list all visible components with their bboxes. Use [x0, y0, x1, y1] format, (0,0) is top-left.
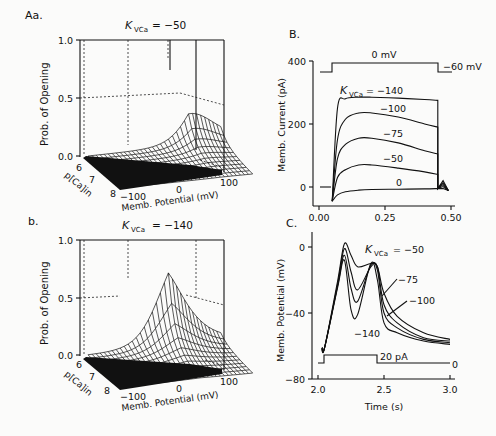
y-axis-label-B: Memb. Current (pA) [276, 78, 287, 172]
y-axis-label-C: Memb. Potential (mV) [275, 259, 286, 362]
panel-C: C. 0 −40 −80 2.0 2.5 3.0 Time (s) Memb. … [275, 217, 458, 412]
svg-text:0.5: 0.5 [58, 93, 73, 104]
svg-text:−75: −75 [398, 274, 418, 285]
svg-text:−100: −100 [380, 103, 406, 114]
svg-text:8: 8 [110, 188, 116, 199]
svg-text:1.0: 1.0 [58, 235, 73, 246]
svg-text:0.00: 0.00 [308, 212, 329, 223]
panel-b: b. K VCa = −140 1.0 0.5 0.0 Prob. of Ope… [28, 215, 253, 413]
panel-Aa-title: K VCa = −50 [125, 19, 186, 34]
panel-label-Aa: Aa. [25, 9, 43, 22]
svg-text:0: 0 [176, 383, 182, 394]
kvca-label-C: K VCa = −50 [365, 243, 424, 258]
svg-text:VCa: VCa [374, 250, 388, 258]
svg-text:−140: −140 [354, 328, 380, 339]
svg-text:0.0: 0.0 [58, 350, 73, 361]
svg-text:−100: −100 [409, 295, 435, 306]
svg-text:0.0: 0.0 [58, 151, 73, 162]
z-axis-label-b: Prob. of Opening [39, 261, 50, 345]
svg-text:0: 0 [299, 242, 305, 253]
svg-text:K: K [122, 219, 130, 232]
panel-B: B. 400 200 0 0.00 0.25 0.50 Memb. Curren… [276, 28, 482, 223]
svg-text:−50: −50 [383, 153, 403, 164]
x-axis-label-C: Time (s) [364, 401, 404, 412]
svg-text:100: 100 [220, 177, 238, 188]
svg-text:K: K [365, 243, 373, 256]
panel-label-C: C. [286, 217, 297, 230]
svg-text:= −140: = −140 [366, 85, 403, 96]
svg-text:0.5: 0.5 [58, 293, 73, 304]
svg-text:0: 0 [452, 359, 458, 370]
current-trace [332, 137, 448, 201]
figure-canvas: Aa. K VCa = −50 1.0 0.5 0.0 Prob. of Ope… [0, 0, 496, 436]
svg-text:VCa: VCa [131, 226, 145, 234]
panel-label-B: B. [289, 28, 300, 41]
svg-text:7: 7 [89, 174, 95, 185]
svg-text:−40: −40 [285, 308, 305, 319]
svg-text:0 mV: 0 mV [372, 49, 397, 60]
current-trace [332, 189, 448, 202]
svg-text:VCa: VCa [134, 26, 148, 34]
svg-text:VCa: VCa [349, 91, 363, 99]
svg-text:K: K [125, 19, 133, 32]
svg-text:−60 mV: −60 mV [443, 61, 482, 72]
svg-text:= −140: = −140 [152, 219, 193, 231]
panel-label-b: b. [28, 215, 38, 228]
svg-text:200: 200 [288, 119, 306, 130]
panel-b-title: K VCa = −140 [122, 219, 193, 234]
svg-text:1.0: 1.0 [58, 35, 73, 46]
svg-text:6: 6 [76, 162, 82, 173]
svg-text:3.0: 3.0 [442, 384, 457, 395]
svg-text:2.5: 2.5 [376, 384, 391, 395]
svg-text:8: 8 [104, 385, 110, 396]
svg-text:6: 6 [76, 359, 82, 370]
panel-Aa: Aa. K VCa = −50 1.0 0.5 0.0 Prob. of Ope… [25, 9, 253, 213]
svg-text:0: 0 [396, 177, 402, 188]
svg-text:7: 7 [89, 371, 95, 382]
current-trace [332, 164, 448, 201]
svg-text:−80: −80 [285, 374, 305, 385]
svg-text:= −50: = −50 [393, 244, 424, 255]
svg-text:2.0: 2.0 [310, 384, 325, 395]
svg-text:400: 400 [288, 56, 306, 67]
z-axis-label-Aa: Prob. of Opening [39, 62, 50, 146]
svg-text:−75: −75 [383, 128, 403, 139]
svg-text:0.25: 0.25 [374, 212, 395, 223]
svg-text:0: 0 [176, 184, 182, 195]
svg-text:0.50: 0.50 [440, 212, 461, 223]
svg-text:0: 0 [300, 182, 306, 193]
svg-text:K: K [340, 84, 348, 97]
svg-text:= −50: = −50 [152, 19, 186, 31]
surface-mesh-b [88, 273, 253, 387]
voltage-step-trace [320, 63, 452, 72]
svg-text:20 pA: 20 pA [380, 351, 408, 362]
svg-text:100: 100 [220, 376, 238, 387]
